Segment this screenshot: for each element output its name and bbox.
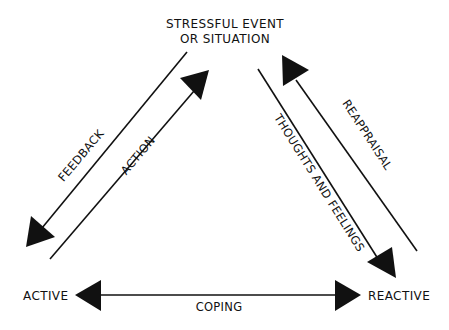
arrowhead-left-icon bbox=[75, 280, 101, 311]
arrowhead-icon bbox=[180, 70, 209, 100]
label-action: ACTION bbox=[118, 133, 158, 177]
label-feedback: FEEDBACK bbox=[55, 126, 107, 184]
node-stressful-event-line2: OR SITUATION bbox=[180, 32, 270, 46]
label-coping: COPING bbox=[196, 300, 243, 314]
label-reappraisal: REAPPRAISAL bbox=[339, 97, 395, 173]
node-reactive: REACTIVE bbox=[368, 289, 430, 303]
arrowhead-right-icon bbox=[335, 280, 361, 311]
arrowhead-icon bbox=[26, 216, 55, 247]
arrowhead-icon bbox=[282, 55, 309, 86]
feedback-arrow bbox=[26, 52, 187, 247]
coping-diagram: STRESSFUL EVENT OR SITUATION FEEDBACK AC… bbox=[0, 0, 449, 330]
label-thoughts-and-feelings: THOUGHTS AND FEELINGS bbox=[271, 111, 368, 255]
arrowhead-icon bbox=[367, 247, 396, 278]
node-stressful-event-line1: STRESSFUL EVENT bbox=[166, 17, 284, 31]
thoughts-and-feelings-arrow bbox=[258, 69, 396, 278]
node-active: ACTIVE bbox=[23, 289, 68, 303]
